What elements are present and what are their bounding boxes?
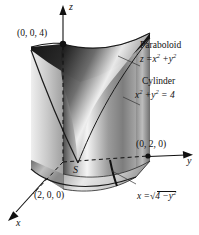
paraboloid-eq-exp2: 2 (173, 52, 176, 59)
cylinder-title: Cylinder (142, 77, 175, 87)
point-label-y-intercept: (0, 2, 0) (136, 140, 166, 150)
boundary-curve-equation: x =√4 −y2 (137, 190, 176, 202)
region-label-S: S (73, 165, 78, 176)
cylinder-eq-rhs: = 4 (161, 90, 175, 100)
paraboloid-equation: z =x2 +y2 (140, 53, 176, 65)
figure-canvas: z y x (0, 0, 4) (0, 2, 0) (2, 0, 0) S Pa… (0, 0, 199, 235)
cylinder-equation: x2 +y2 = 4 (135, 89, 175, 101)
y-intercept-dot (145, 153, 150, 158)
x-axis-label: x (16, 218, 20, 229)
radical-overbar (157, 191, 177, 192)
y-axis-label: y (187, 156, 191, 167)
z-intercept-dot (60, 41, 66, 47)
paraboloid-eq-lhs: z = (140, 54, 152, 64)
radicand-a: 4 − (155, 191, 169, 201)
boundary-eq-lhs: x = (137, 191, 150, 201)
cylinder-eq-exp1: 2 (139, 88, 142, 95)
boundary-eq-radical-group: √4 −y2 (150, 190, 176, 202)
point-label-z-intercept: (0, 0, 4) (17, 29, 47, 39)
paraboloid-title: Paraboloid (140, 41, 181, 51)
z-axis-label: z (69, 2, 73, 13)
point-label-x-intercept: (2, 0, 0) (34, 191, 64, 201)
cylinder-eq-exp2: 2 (155, 88, 158, 95)
paraboloid-eq-exp1: 2 (157, 52, 160, 59)
